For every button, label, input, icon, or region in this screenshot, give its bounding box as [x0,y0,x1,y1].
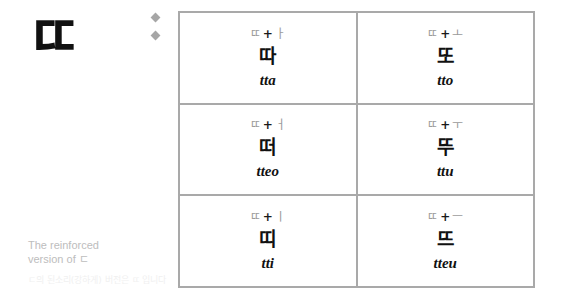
syllable-cell-tta: ㄸ+ㅏ 따 tta [179,12,357,104]
formula-tteo: ㄸ+ㅓ [250,118,286,133]
syllable-hangul: 뚜 [437,136,454,159]
formula-vowel: ㅗ [452,27,463,41]
formula-vowel: ㅣ [275,210,286,224]
syllable-romanization: tto [437,71,453,89]
caption-english: The reinforced version of ㄷ [28,238,168,266]
formula-vowel: ㅡ [452,210,463,224]
formula-vowel: ㅓ [275,118,286,132]
syllable-table: ㄸ+ㅏ 따 tta ㄸ+ㅗ 또 tto ㄸ+ㅓ 떠 tteo [178,11,535,288]
formula-consonant: ㄸ [250,27,261,41]
plus-icon: + [438,118,452,132]
syllable-hangul: 또 [437,45,454,68]
formula-tta: ㄸ+ㅏ [250,27,286,42]
syllable-hangul: 떠 [259,136,276,159]
table-row: ㄸ+ㅏ 따 tta ㄸ+ㅗ 또 tto [179,12,534,104]
syllable-hangul: 뜨 [437,228,454,251]
formula-consonant: ㄸ [427,27,438,41]
formula-tti: ㄸ+ㅣ [250,210,286,225]
syllable-cell-tteu: ㄸ+ㅡ 뜨 tteu [357,195,535,287]
diamond-bullet-icon [151,13,161,23]
formula-tteu: ㄸ+ㅡ [427,210,463,225]
syllable-romanization: tteo [257,162,280,180]
table-row: ㄸ+ㅣ 띠 tti ㄸ+ㅡ 뜨 tteu [179,195,534,287]
syllable-hangul: 띠 [259,228,276,251]
caption-korean: ㄷ의 된소리(강하게) 버전은 ㄸ 입니다 [28,274,168,286]
formula-ttu: ㄸ+ㅜ [427,118,463,133]
formula-tto: ㄸ+ㅗ [427,27,463,42]
caption-block: The reinforced version of ㄷ ㄷ의 된소리(강하게) … [28,238,168,286]
syllable-cell-tto: ㄸ+ㅗ 또 tto [357,12,535,104]
syllable-romanization: tteu [434,254,457,272]
formula-vowel: ㅜ [452,118,463,132]
formula-consonant: ㄸ [250,118,261,132]
bullet-marker-group [152,14,166,50]
formula-consonant: ㄸ [427,118,438,132]
formula-consonant: ㄸ [427,210,438,224]
syllable-cell-tteo: ㄸ+ㅓ 떠 tteo [179,104,357,196]
diamond-bullet-icon [151,31,161,41]
consonant-logo-glyph: ㄸ [28,8,80,66]
caption-english-line-2: version of ㄷ [28,252,168,266]
plus-icon: + [438,27,452,41]
plus-icon: + [261,118,275,132]
syllable-cell-tti: ㄸ+ㅣ 띠 tti [179,195,357,287]
table-row: ㄸ+ㅓ 떠 tteo ㄸ+ㅜ 뚜 ttu [179,104,534,196]
syllable-romanization: tta [260,71,276,89]
plus-icon: + [261,210,275,224]
syllable-romanization: ttu [437,162,454,180]
formula-consonant: ㄸ [250,210,261,224]
plus-icon: + [438,210,452,224]
syllable-hangul: 따 [259,45,276,68]
syllable-romanization: tti [261,254,274,272]
plus-icon: + [261,27,275,41]
formula-vowel: ㅏ [275,27,286,41]
syllable-cell-ttu: ㄸ+ㅜ 뚜 ttu [357,104,535,196]
caption-english-line-1: The reinforced [28,238,168,252]
